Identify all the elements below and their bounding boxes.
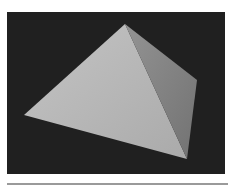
image-frame: [0, 0, 235, 187]
pyramid-scene: [0, 0, 235, 187]
